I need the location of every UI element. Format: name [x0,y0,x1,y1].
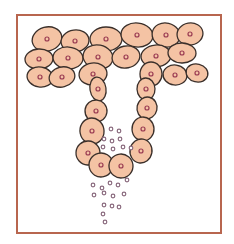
secretory-granule [102,191,106,195]
secretory-granule [129,146,133,150]
secretory-granule [116,183,120,187]
secretory-granule [91,183,95,187]
secretory-granule [109,127,113,131]
secretory-granule [100,186,104,190]
gland-cells-illustration [0,0,234,244]
secretory-granule [121,145,125,149]
secretory-granule [101,145,105,149]
secretory-granule [103,220,107,224]
secretory-granule [110,139,114,143]
secretory-granule [101,212,105,216]
secretory-granule [92,193,96,197]
secretory-granule [125,178,129,182]
secretory-granule [102,137,106,141]
secretory-granule [102,203,106,207]
secretory-granule [110,204,114,208]
illustration-canvas [0,0,234,244]
secretory-granule [117,205,121,209]
secretory-granule [111,147,115,151]
secretory-granule [117,129,121,133]
secretory-granule [111,194,115,198]
secretory-granule [118,137,122,141]
secretory-granule [122,192,126,196]
secretory-granule [108,181,112,185]
cell-body [168,43,197,64]
cell [168,43,197,64]
